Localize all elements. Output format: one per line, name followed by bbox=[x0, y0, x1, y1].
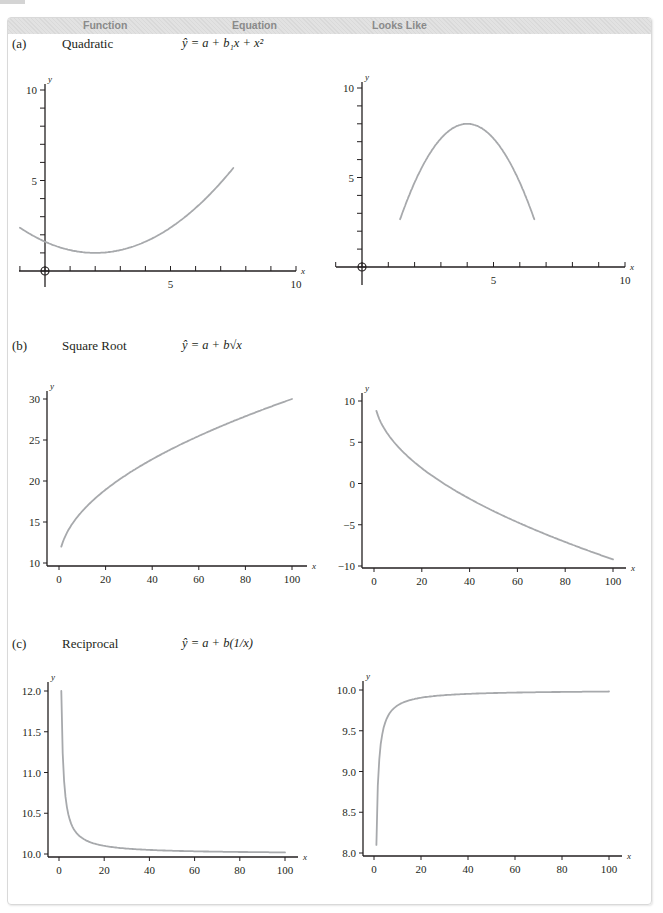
b-right-x-tick-label: 0 bbox=[371, 575, 377, 587]
a-left-x-tick-label: 10 bbox=[291, 278, 303, 290]
a-left-curve bbox=[20, 168, 233, 253]
c-left-y-tick-label: 11.0 bbox=[22, 767, 41, 779]
c-left-y-tick-label: 10.0 bbox=[22, 848, 42, 860]
c-right-y-tick-label: 8.0 bbox=[342, 847, 356, 859]
b-left-x-tick-label: 100 bbox=[284, 573, 301, 585]
a-right-x-tick-label: 5 bbox=[491, 274, 497, 286]
b-right-curve bbox=[376, 411, 613, 560]
a-left-y-label: y bbox=[47, 74, 52, 84]
c-right-y-tick-label: 10.0 bbox=[337, 684, 357, 696]
c-left-x-tick-label: 100 bbox=[277, 864, 294, 876]
c-left-y-tick-label: 11.5 bbox=[22, 726, 41, 738]
c-right-y-label: y bbox=[365, 671, 370, 681]
c-left-y-label: y bbox=[50, 672, 55, 682]
b-right-y-tick-label: 0 bbox=[350, 478, 356, 490]
c-right-x-tick-label: 80 bbox=[557, 863, 569, 875]
b-right-y-tick-label: −10 bbox=[338, 560, 356, 572]
a-left-y-tick-label: 10 bbox=[26, 84, 38, 96]
b-left-x-tick-label: 0 bbox=[56, 573, 62, 585]
c-right-x-label: x bbox=[626, 851, 631, 861]
b-left-x-tick-label: 40 bbox=[147, 573, 159, 585]
a-left-x-label: x bbox=[300, 266, 305, 276]
b-right-x-label: x bbox=[630, 563, 635, 573]
c-right-x-tick-label: 0 bbox=[371, 863, 377, 875]
b-right-y-tick-label: 5 bbox=[350, 436, 356, 448]
c-right-x-tick-label: 40 bbox=[463, 863, 475, 875]
c-left-x-tick-label: 0 bbox=[56, 864, 62, 876]
a-right-curve bbox=[400, 124, 534, 219]
b-right-x-tick-label: 80 bbox=[560, 575, 572, 587]
b-left-x-tick-label: 80 bbox=[240, 573, 252, 585]
b-left-curve bbox=[61, 399, 292, 547]
c-right-x-tick-label: 20 bbox=[416, 863, 428, 875]
b-left-y-tick-label: 25 bbox=[29, 434, 41, 446]
b-right-x-tick-label: 100 bbox=[605, 575, 622, 587]
c-left-curve bbox=[61, 691, 285, 852]
a-left-y-tick-label: 5 bbox=[32, 175, 38, 187]
c-right-y-tick-label: 9.0 bbox=[342, 766, 356, 778]
c-left-x-tick-label: 60 bbox=[189, 864, 201, 876]
c-left-x-tick-label: 80 bbox=[234, 864, 246, 876]
a-right-y-label: y bbox=[364, 72, 369, 82]
c-left-x-label: x bbox=[302, 852, 307, 862]
c-left-y-tick-label: 10.5 bbox=[22, 807, 42, 819]
c-right-y-tick-label: 9.5 bbox=[342, 725, 356, 737]
b-left-x-tick-label: 60 bbox=[193, 573, 205, 585]
b-left-x-label: x bbox=[311, 561, 316, 571]
b-left-x-tick-label: 20 bbox=[100, 573, 112, 585]
c-right-curve bbox=[376, 692, 609, 845]
b-left-y-label: y bbox=[49, 381, 54, 391]
b-right-y-label: y bbox=[364, 383, 369, 393]
c-left-x-tick-label: 20 bbox=[99, 864, 111, 876]
c-right-x-tick-label: 60 bbox=[510, 863, 522, 875]
charts-canvas: yx510510yx510510yx0204060801001015202530… bbox=[0, 0, 663, 913]
b-right-x-tick-label: 40 bbox=[464, 575, 476, 587]
b-right-y-tick-label: 10 bbox=[344, 395, 356, 407]
b-left-y-tick-label: 10 bbox=[29, 557, 41, 569]
a-right-y-tick-label: 10 bbox=[343, 82, 355, 94]
b-right-x-tick-label: 60 bbox=[512, 575, 524, 587]
b-left-y-tick-label: 30 bbox=[29, 393, 41, 405]
c-left-y-tick-label: 12.0 bbox=[22, 685, 42, 697]
c-right-x-tick-label: 100 bbox=[601, 863, 618, 875]
b-left-y-tick-label: 15 bbox=[29, 516, 41, 528]
a-right-x-label: x bbox=[629, 262, 634, 272]
a-left-x-tick-label: 5 bbox=[168, 278, 174, 290]
a-right-x-tick-label: 10 bbox=[620, 274, 632, 286]
c-right-y-tick-label: 8.5 bbox=[342, 806, 356, 818]
b-left-y-tick-label: 20 bbox=[29, 475, 41, 487]
b-right-y-tick-label: −5 bbox=[343, 519, 355, 531]
a-right-y-tick-label: 5 bbox=[349, 172, 355, 184]
b-right-x-tick-label: 20 bbox=[416, 575, 428, 587]
c-left-x-tick-label: 40 bbox=[144, 864, 156, 876]
